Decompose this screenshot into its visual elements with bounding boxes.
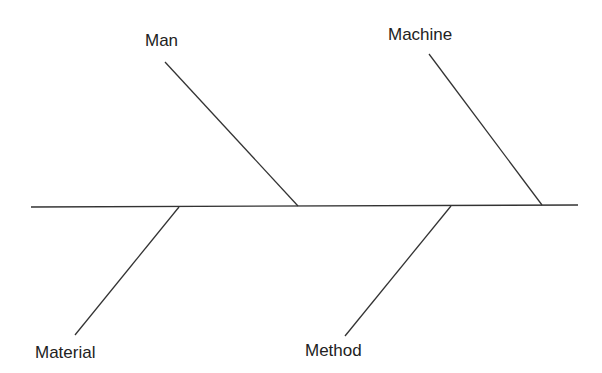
label-material: Material: [35, 344, 95, 361]
fishbone-lines: [0, 0, 602, 373]
label-method: Method: [305, 342, 362, 359]
bone-method-line: [345, 206, 451, 336]
spine-line: [31, 205, 578, 207]
bone-machine-line: [429, 54, 542, 205]
label-man: Man: [145, 32, 178, 49]
fishbone-diagram: Man Machine Material Method: [0, 0, 602, 373]
bone-material-line: [75, 207, 179, 335]
label-machine: Machine: [388, 26, 452, 43]
bone-man-line: [165, 62, 298, 206]
